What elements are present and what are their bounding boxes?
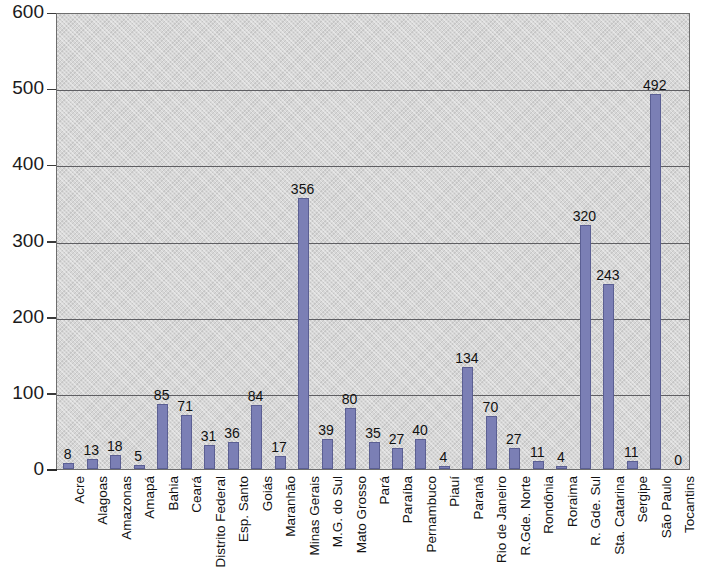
bar	[439, 466, 450, 469]
bar-value-label: 243	[588, 268, 628, 282]
x-axis-tick-label: Sergipe	[636, 476, 650, 523]
y-axis-tick-mark	[47, 165, 56, 167]
x-axis-tick-label: Amapá	[143, 476, 157, 519]
bar-value-label: 84	[236, 389, 276, 403]
x-axis-tick-label: R. Gde. Sul	[589, 476, 603, 546]
x-axis-tick-label: Sta. Catarina	[613, 476, 627, 555]
x-axis-tick-label: Ceará	[190, 476, 204, 513]
bar	[275, 456, 286, 469]
bar	[627, 461, 638, 469]
y-axis-tick-label: 400	[0, 154, 44, 173]
x-axis-tick-label: Paraíba	[401, 476, 415, 523]
y-axis-tick-mark	[47, 241, 56, 243]
bar	[228, 442, 239, 469]
bar-value-label: 80	[330, 392, 370, 406]
bar-value-label: 5	[118, 449, 158, 463]
x-axis-tick-label: Pará	[378, 476, 392, 505]
gridline	[57, 243, 689, 244]
x-axis-tick-label: Distrito Federal	[214, 476, 228, 568]
y-axis-tick-label: 100	[0, 383, 44, 402]
gridline	[57, 319, 689, 320]
x-axis-tick-label: M.G. do Sul	[331, 476, 345, 547]
x-axis-tick-label: Esp. Santo	[237, 476, 251, 542]
bar-value-label: 70	[470, 400, 510, 414]
bar	[157, 404, 168, 469]
bar-value-label: 71	[165, 399, 205, 413]
x-axis-tick-label: Maranhão	[284, 476, 298, 537]
x-axis-tick-label: Amazonas	[120, 476, 134, 540]
y-axis-tick-label: 0	[0, 459, 44, 478]
y-axis-tick-mark	[47, 393, 56, 395]
y-axis-tick-mark	[47, 13, 56, 15]
y-axis-tick-label: 600	[0, 2, 44, 21]
bar-value-label: 492	[635, 78, 675, 92]
bar-value-label: 36	[212, 426, 252, 440]
bar	[134, 465, 145, 469]
bar	[603, 284, 614, 469]
x-axis-tick-label: Alagoas	[96, 476, 110, 525]
y-axis-tick-label: 300	[0, 231, 44, 250]
bar-value-label: 11	[611, 445, 651, 459]
x-axis-tick-label: Rio de Janeiro	[495, 476, 509, 563]
bar	[650, 94, 661, 469]
y-axis-tick-mark	[47, 89, 56, 91]
bar-value-label: 320	[564, 209, 604, 223]
x-axis-tick-label: Mato Grosso	[355, 476, 369, 553]
x-axis-tick-label: São Paulo	[660, 476, 674, 538]
bar	[204, 445, 215, 469]
bar	[462, 367, 473, 469]
y-axis-tick-mark	[47, 317, 56, 319]
bar	[556, 466, 567, 469]
bar-value-label: 17	[259, 440, 299, 454]
bar-value-label: 39	[306, 423, 346, 437]
bar-value-label: 40	[400, 423, 440, 437]
bar	[580, 225, 591, 469]
bar-value-label: 356	[283, 182, 323, 196]
gridline	[57, 90, 689, 91]
bar	[322, 439, 333, 469]
bar	[87, 459, 98, 469]
x-axis-tick-label: Pernambuco	[425, 476, 439, 553]
bar-value-label: 0	[658, 453, 698, 467]
bar	[251, 405, 262, 469]
x-axis-tick-label: Bahia	[167, 476, 181, 511]
x-axis-tick-label: Roraima	[566, 476, 580, 527]
x-axis-tick-label: Minas Gerais	[308, 476, 322, 556]
bar-value-label: 134	[447, 351, 487, 365]
x-axis-tick-label: Piauí	[448, 476, 462, 507]
x-axis-tick-label: Tocantins	[683, 476, 697, 533]
x-axis-tick-label: Rondônia	[542, 476, 556, 534]
bar-chart: 0100200300400500600 81318585713136841735…	[0, 0, 703, 588]
gridline	[57, 166, 689, 167]
bar-value-label: 4	[423, 450, 463, 464]
x-axis-tick-label: Acre	[73, 476, 87, 504]
bar-value-label: 4	[541, 450, 581, 464]
y-axis-tick-label: 500	[0, 78, 44, 97]
x-axis-tick-label: Paraná	[472, 476, 486, 520]
bar	[63, 463, 74, 469]
bar	[392, 448, 403, 469]
x-axis-tick-label: Goiás	[261, 476, 275, 511]
y-axis-baseline-tick	[47, 469, 57, 471]
x-axis-tick-label: R.Gde. Norte	[519, 476, 533, 556]
y-axis-tick-label: 200	[0, 307, 44, 326]
